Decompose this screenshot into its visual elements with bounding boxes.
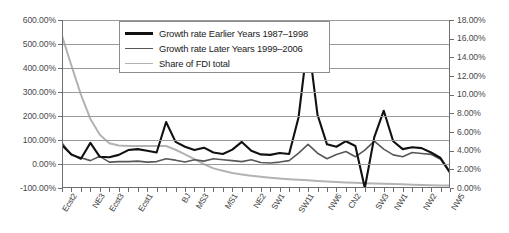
x-axis-label-sw3: SW3 — [374, 192, 391, 211]
x-axis-label-sw1: SW1 — [270, 192, 287, 211]
x-axis-label-cn2: CN2 — [347, 192, 363, 210]
y-axis-right-tick-label: 12.00% — [457, 72, 486, 81]
x-axis-label-ecst3: Ecst3 — [108, 192, 126, 213]
y-axis-left-tick-label: -100.00% — [0, 184, 56, 193]
legend-swatch-later-years — [125, 48, 153, 50]
legend-item-later-years: Growth rate Later Years 1999–2006 — [125, 41, 324, 56]
y-axis-right-tick-label: 14.00% — [457, 53, 486, 62]
y-axis-right-tick — [450, 132, 454, 133]
y-axis-left-tick-label: 0.00% — [0, 160, 56, 169]
y-axis-right-tick — [450, 20, 454, 21]
y-axis-right-tick-label: 6.00% — [457, 128, 481, 137]
x-axis-label-sw11: SW11 — [297, 192, 316, 214]
y-axis-left-tick-label: 300.00% — [0, 88, 56, 97]
y-axis-right-tick — [450, 57, 454, 58]
legend-swatch-share-of-fdi — [125, 63, 153, 65]
legend-label-share-of-fdi: Share of FDI total — [159, 58, 230, 69]
y-axis-right-tick — [450, 113, 454, 114]
y-axis-right-tick-label: 4.00% — [457, 146, 481, 155]
gridline — [62, 92, 450, 93]
y-axis-right-tick-label: 0.00% — [457, 184, 481, 193]
y-axis-right-tick-label: 10.00% — [457, 90, 486, 99]
y-axis-right-tick-label: 18.00% — [457, 16, 486, 25]
legend-swatch-earlier-years — [125, 32, 153, 35]
y-axis-right-tick-label: 16.00% — [457, 34, 486, 43]
y-axis-right-line — [449, 20, 450, 188]
y-axis-left-tick-label: 600.00% — [0, 16, 56, 25]
x-axis-label-nw1: NW1 — [393, 192, 410, 212]
x-axis-tick — [450, 188, 451, 192]
y-axis-right-tick — [450, 169, 454, 170]
legend-label-earlier-years: Growth rate Earlier Years 1987–1998 — [159, 28, 308, 39]
y-axis-left-tick-label: 100.00% — [0, 136, 56, 145]
legend-item-earlier-years: Growth rate Earlier Years 1987–1998 — [125, 26, 324, 41]
legend-label-later-years: Growth rate Later Years 1999–2006 — [159, 43, 303, 54]
x-axis-labels: Ecst2NE3Ecst3Ecst1BJMS3MS1NE2SW1SW11NW6C… — [62, 192, 450, 233]
legend-item-share-of-fdi: Share of FDI total — [125, 56, 324, 71]
x-axis-label-ecst1: Ecst1 — [136, 192, 154, 213]
x-axis-label-nw5: NW5 — [450, 192, 467, 212]
gridline — [62, 140, 450, 141]
y-axis-right-tick-label: 8.00% — [457, 109, 481, 118]
y-axis-right-tick — [450, 151, 454, 152]
x-axis-label-ms1: MS1 — [223, 192, 239, 211]
y-axis-right-tick — [450, 39, 454, 40]
x-axis-label-ms3: MS3 — [195, 192, 211, 211]
gridline — [62, 164, 450, 165]
y-axis-left-tick-label: 200.00% — [0, 112, 56, 121]
y-axis-left-tick-label: 500.00% — [0, 40, 56, 49]
x-axis-label-ne2: NE2 — [252, 192, 268, 210]
x-axis-label-ecst2: Ecst2 — [61, 192, 79, 213]
y-axis-right-tick — [450, 76, 454, 77]
y-axis-right-tick-label: 2.00% — [457, 165, 481, 174]
gridline — [62, 116, 450, 117]
fdi-growth-rate-chart: -100.00%0.00%100.00%200.00%300.00%400.00… — [0, 0, 509, 233]
x-axis-label-nw6: NW6 — [327, 192, 344, 212]
y-axis-left-tick-label: 400.00% — [0, 64, 56, 73]
x-axis-label-ne3: NE3 — [91, 192, 107, 210]
y-axis-right-tick — [450, 95, 454, 96]
y-axis-left-line — [62, 20, 63, 188]
x-axis-label-nw2: NW2 — [421, 192, 438, 212]
x-axis-label-bj: BJ — [180, 192, 192, 205]
chart-legend: Growth rate Earlier Years 1987–1998 Grow… — [119, 21, 330, 73]
